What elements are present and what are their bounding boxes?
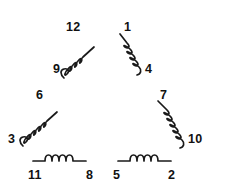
terminal-8: 8 [86, 169, 93, 182]
winding-diagram-canvas: 121946731011852 [0, 0, 239, 193]
terminal-3: 3 [8, 133, 15, 146]
terminal-2: 2 [168, 169, 175, 182]
coil-lower-left-symbol [20, 112, 57, 146]
coil-upper-right-path [120, 34, 141, 75]
coil-lower-right-path [158, 101, 184, 148]
terminal-7: 7 [160, 89, 167, 102]
terminal-6: 6 [36, 89, 43, 102]
coil-bottom-right-symbol [118, 155, 171, 161]
terminal-1: 1 [124, 21, 131, 34]
coil-bottom-left-path [33, 155, 86, 161]
coil-lower-right-symbol [158, 101, 184, 148]
terminal-11: 11 [28, 169, 42, 182]
terminal-4: 4 [145, 63, 152, 76]
terminal-12: 12 [66, 21, 80, 34]
coil-upper-left-path [61, 47, 94, 78]
coil-upper-right-symbol [120, 34, 141, 75]
terminal-9: 9 [53, 63, 60, 76]
coil-lower-left-path [20, 112, 57, 146]
coil-bottom-right-path [118, 155, 171, 161]
coil-upper-left-symbol [61, 47, 94, 78]
coil-bottom-left-symbol [33, 155, 86, 161]
terminal-10: 10 [188, 133, 202, 146]
terminal-5: 5 [113, 169, 120, 182]
